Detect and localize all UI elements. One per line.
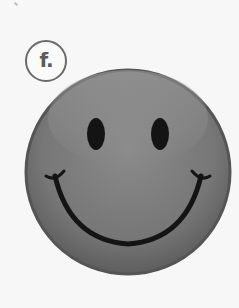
smiley-face-icon [0, 0, 239, 308]
right-eye [151, 118, 169, 150]
left-eye [87, 118, 105, 150]
face-highlight [48, 70, 208, 166]
